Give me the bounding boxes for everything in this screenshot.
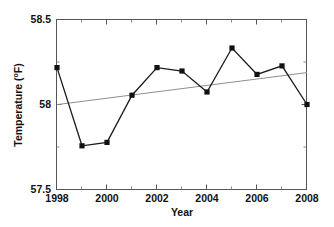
x-tick-label-2004: 2004 xyxy=(195,192,219,204)
data-series-line xyxy=(57,48,307,146)
data-point-marker xyxy=(304,102,309,107)
data-point-marker xyxy=(104,140,109,145)
data-series-markers xyxy=(54,45,309,148)
data-point-marker xyxy=(254,72,259,77)
temperature-line-chart: 58.5 58 57.5 1998 2000 2002 2004 2006 20… xyxy=(0,0,334,227)
figure-container: 58.5 58 57.5 1998 2000 2002 2004 2006 20… xyxy=(0,0,334,227)
x-tick-label-1998: 1998 xyxy=(45,192,69,204)
x-tick-label-2008: 2008 xyxy=(295,192,319,204)
y-axis-minor-ticks xyxy=(57,62,307,147)
y-axis-major-ticks xyxy=(57,20,307,190)
data-point-marker xyxy=(179,68,184,73)
data-point-marker xyxy=(54,65,59,70)
svg-text:Temperature (oF): Temperature (oF) xyxy=(12,63,24,146)
data-point-marker xyxy=(154,65,159,70)
x-axis-major-ticks xyxy=(57,20,307,190)
plot-frame xyxy=(57,20,307,190)
data-point-marker xyxy=(279,63,284,68)
x-tick-label-2000: 2000 xyxy=(95,192,119,204)
data-point-marker xyxy=(129,93,134,98)
y-tick-label-58: 58 xyxy=(39,98,51,110)
x-tick-label-2006: 2006 xyxy=(245,192,269,204)
data-point-marker xyxy=(229,45,234,50)
data-point-marker xyxy=(79,143,84,148)
y-axis-title-prefix: Temperature ( xyxy=(12,77,24,147)
data-point-marker xyxy=(204,89,209,94)
y-tick-label-58-5: 58.5 xyxy=(31,13,52,25)
trend-line xyxy=(57,73,307,105)
x-tick-label-2002: 2002 xyxy=(145,192,169,204)
y-axis-title: Temperature (oF) xyxy=(12,63,24,146)
x-axis-minor-ticks xyxy=(82,20,282,190)
y-axis-title-suffix: F) xyxy=(12,63,24,73)
x-axis-title: Year xyxy=(171,206,193,218)
